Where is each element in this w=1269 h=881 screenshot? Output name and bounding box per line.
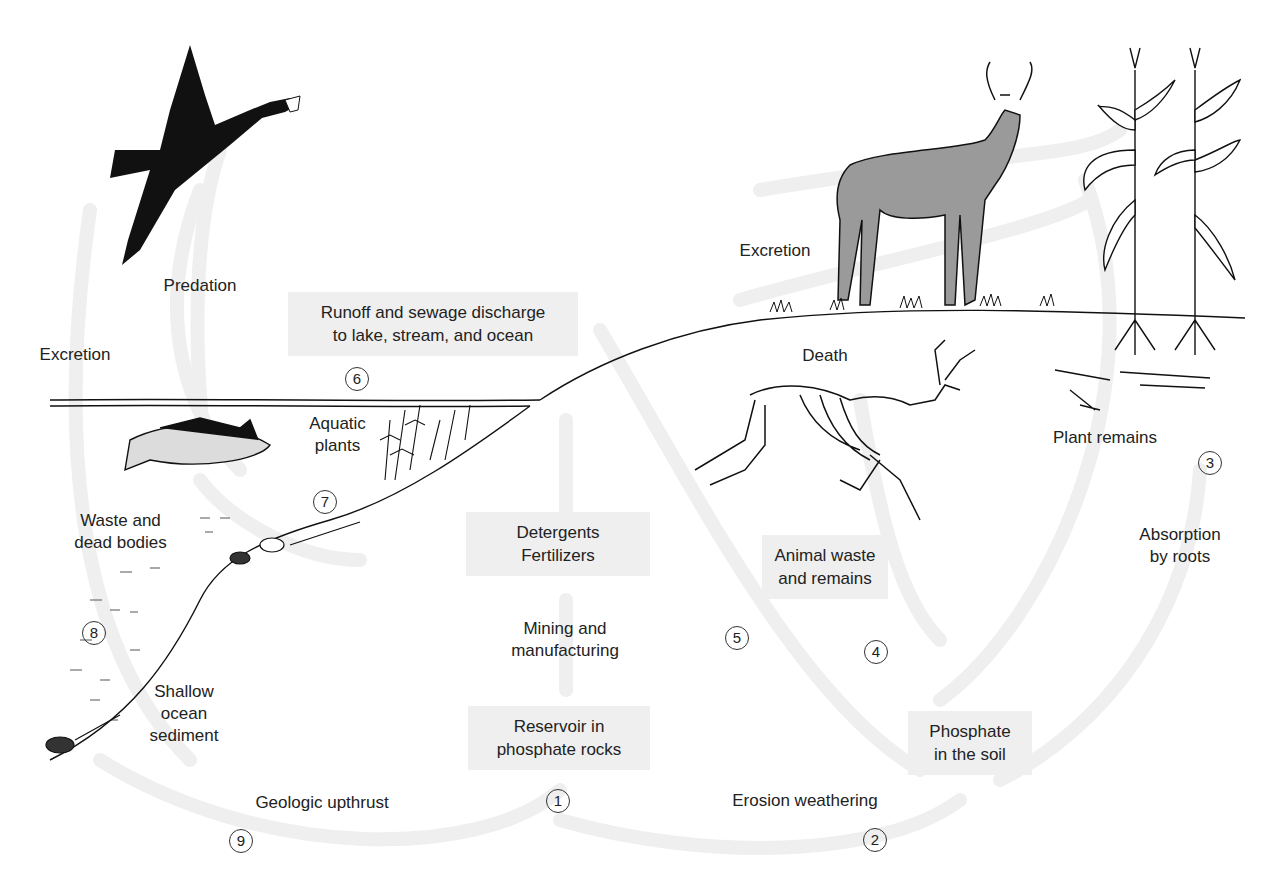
label-erosion-weathering: Erosion weathering: [710, 790, 900, 812]
box-reservoir-line1: Reservoir in: [514, 715, 605, 738]
label-death: Death: [795, 345, 855, 367]
label-shallow-ocean-sediment: Shallow ocean sediment: [140, 681, 228, 747]
label-excretion-left: Excretion: [30, 344, 120, 366]
label-absorption-line1: Absorption: [1125, 524, 1235, 546]
label-geologic-upthrust: Geologic upthrust: [232, 792, 412, 814]
label-aquatic-plants: Aquatic plants: [300, 413, 375, 457]
step-marker-9: 9: [229, 829, 253, 853]
box-phosphate-line1: Phosphate: [929, 720, 1010, 743]
box-runoff-line1: Runoff and sewage discharge: [321, 301, 546, 324]
label-waste-dead-bodies: Waste and dead bodies: [58, 510, 183, 554]
box-reservoir-line2: phosphate rocks: [497, 738, 622, 761]
label-waste-line2: dead bodies: [58, 532, 183, 554]
label-absorption-by-roots: Absorption by roots: [1125, 524, 1235, 568]
box-animal-line2: and remains: [778, 567, 872, 590]
label-shallow-line3: sediment: [140, 725, 228, 747]
step-marker-6: 6: [345, 367, 369, 391]
label-absorption-line2: by roots: [1125, 546, 1235, 568]
fish-illustration: [125, 418, 270, 470]
box-detergents-fertilizers: Detergents Fertilizers: [466, 512, 650, 576]
deer-skeleton-illustration: [695, 340, 975, 520]
box-runoff-line2: to lake, stream, and ocean: [333, 324, 533, 347]
aquatic-plants-illustration: [380, 405, 470, 480]
box-animal-waste-remains: Animal waste and remains: [762, 535, 888, 599]
label-mining-line1: Mining and: [490, 618, 640, 640]
label-excretion-right: Excretion: [730, 240, 820, 262]
step-marker-5: 5: [725, 626, 749, 650]
step-marker-3: 3: [1198, 451, 1222, 475]
box-runoff-sewage: Runoff and sewage discharge to lake, str…: [288, 292, 578, 356]
box-animal-line1: Animal waste: [774, 544, 875, 567]
deer-illustration: [837, 62, 1032, 305]
step-marker-2: 2: [863, 828, 887, 852]
plant-remains-illustration: [1055, 370, 1210, 410]
step-marker-1: 1: [546, 789, 570, 813]
label-plant-remains: Plant remains: [1045, 427, 1165, 449]
box-detergents-line1: Detergents: [516, 521, 599, 544]
label-aquatic-line1: Aquatic: [300, 413, 375, 435]
step-marker-7: 7: [313, 490, 337, 514]
step-marker-4: 4: [864, 640, 888, 664]
label-aquatic-line2: plants: [300, 435, 375, 457]
label-mining-manufacturing: Mining and manufacturing: [490, 618, 640, 662]
grass: [770, 294, 1054, 312]
label-shallow-line1: Shallow: [140, 681, 228, 703]
label-predation: Predation: [150, 275, 250, 297]
box-phosphate-line2: in the soil: [934, 743, 1006, 766]
box-phosphate-in-soil: Phosphate in the soil: [908, 711, 1032, 775]
step-marker-8: 8: [82, 621, 106, 645]
box-reservoir-phosphate-rocks: Reservoir in phosphate rocks: [468, 706, 650, 770]
label-waste-line1: Waste and: [58, 510, 183, 532]
box-detergents-line2: Fertilizers: [521, 544, 595, 567]
label-shallow-line2: ocean: [140, 703, 228, 725]
label-mining-line2: manufacturing: [490, 640, 640, 662]
